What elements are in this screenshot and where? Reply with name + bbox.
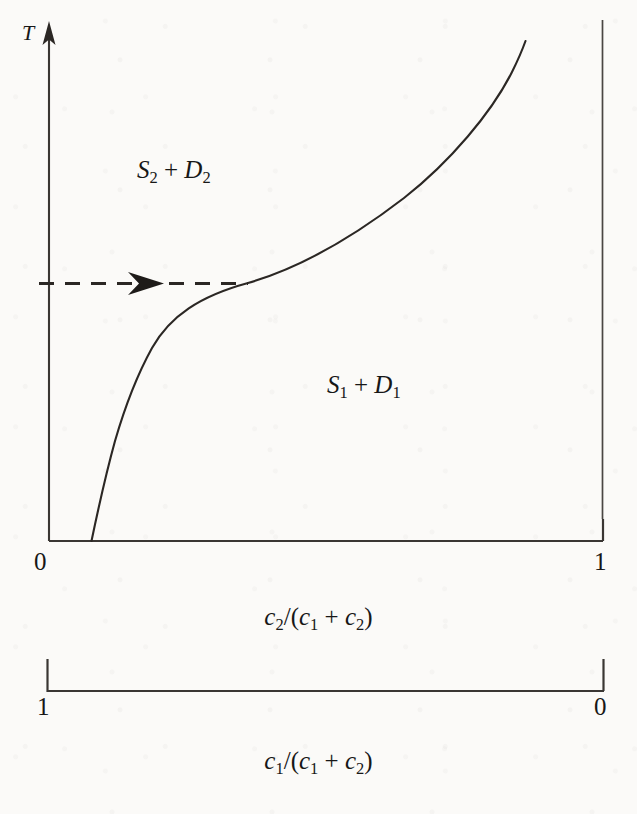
x-axis-caption: c2/(c1 + c2) [0, 604, 637, 629]
secondary-scale-caption: c1/(c1 + c2) [0, 748, 637, 773]
x-axis-tick-1: 1 [594, 549, 607, 574]
x-axis [49, 519, 603, 541]
secondary-scale-tick-0: 0 [594, 694, 607, 719]
secondary-scale-bar [47, 659, 604, 692]
phase-boundary-curve [92, 41, 526, 541]
phase-diagram-figure [0, 0, 637, 814]
y-axis-label: T [22, 22, 34, 44]
x-axis-tick-0: 0 [34, 549, 47, 574]
phase-region-label-upper: S2 + D2 [137, 157, 211, 182]
figure-page: T S2 + D2 S1 + D1 0 1 c2/(c1 + c2) 1 0 c… [0, 0, 637, 814]
arrowhead-icon [128, 272, 164, 295]
dashed-arrow-annotation [39, 272, 248, 295]
y-axis [43, 21, 56, 541]
phase-region-label-lower: S1 + D1 [327, 372, 401, 397]
secondary-scale-tick-1: 1 [37, 694, 50, 719]
